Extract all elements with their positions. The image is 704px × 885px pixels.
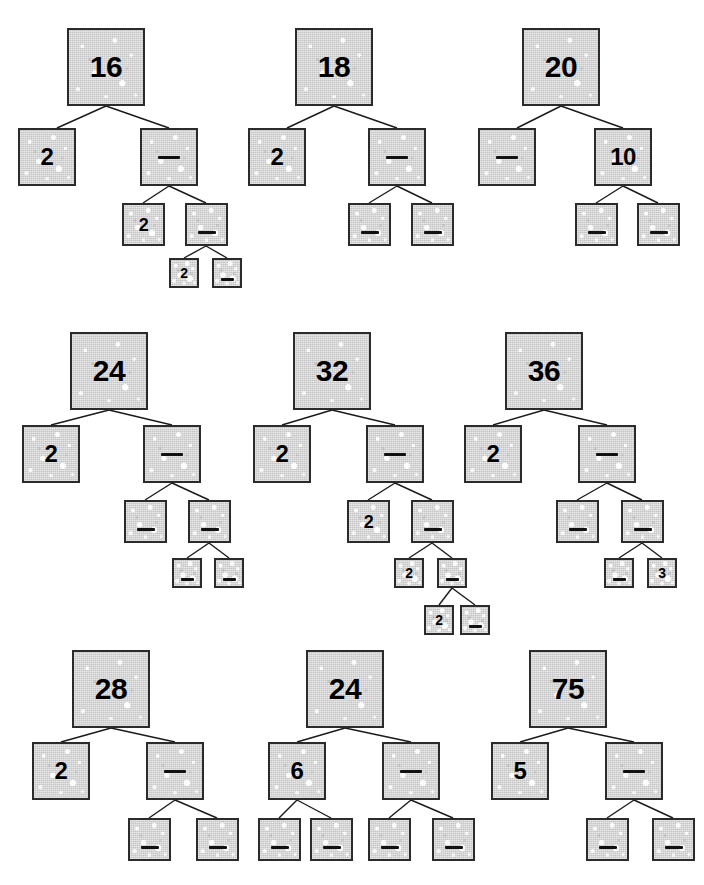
- tree-36-l3-left-blank-box[interactable]: [604, 558, 634, 588]
- tree-32-l2-right-blank-box[interactable]: [411, 500, 454, 543]
- tree-edge: [368, 483, 395, 500]
- tree-edge: [619, 543, 642, 558]
- answer-rule: [469, 625, 482, 628]
- tree-36-root-value-box[interactable]: 36: [505, 332, 583, 410]
- tree-36-l1-right-blank-box[interactable]: [578, 425, 636, 483]
- tree-edge: [287, 106, 334, 128]
- tree-24-b-l2-d-blank-box[interactable]: [432, 818, 475, 861]
- tree-75-l2-right-blank-box[interactable]: [652, 818, 695, 861]
- tree-32-root-value-box[interactable]: 32: [293, 332, 371, 410]
- tree-16-l3-left-value-box[interactable]: 2: [169, 258, 199, 288]
- answer-rule: [496, 156, 518, 159]
- tree-16-l1-left-value-box[interactable]: 2: [18, 128, 76, 186]
- tree-20-l2-right-blank-box[interactable]: [637, 203, 680, 246]
- node-value: 6: [291, 759, 304, 783]
- tree-24-b-l2-c-blank-box[interactable]: [368, 818, 411, 861]
- tree-edge: [145, 483, 172, 500]
- tree-edge: [279, 800, 297, 818]
- answer-rule: [588, 231, 606, 234]
- tree-24-a-l1-left-value-box[interactable]: 2: [22, 425, 80, 483]
- tree-32-l1-left-value-box[interactable]: 2: [253, 425, 311, 483]
- tree-36-l2-left-blank-box[interactable]: [556, 500, 599, 543]
- tree-edge: [395, 483, 432, 500]
- tree-28-l2-right-blank-box[interactable]: [196, 818, 239, 861]
- tree-32-l4-left-value-box[interactable]: 2: [424, 605, 454, 635]
- node-value: 24: [329, 674, 361, 704]
- tree-20-l1-left-blank-box[interactable]: [478, 128, 536, 186]
- tree-24-a-l3-left-blank-box[interactable]: [172, 558, 202, 588]
- tree-edge: [111, 728, 175, 742]
- tree-20-l1-right-value-box[interactable]: 10: [594, 128, 652, 186]
- tree-24-a-l2-right-blank-box[interactable]: [188, 500, 231, 543]
- tree-16-l2-left-value-box[interactable]: 2: [122, 203, 165, 246]
- tree-16-l3-right-blank-box[interactable]: [212, 258, 242, 288]
- tree-edge: [596, 186, 623, 203]
- answer-rule: [446, 578, 459, 581]
- tree-16-l2-right-blank-box[interactable]: [185, 203, 228, 246]
- answer-rule: [400, 770, 422, 773]
- tree-24-a-l3-right-blank-box[interactable]: [214, 558, 244, 588]
- tree-28-l2-left-blank-box[interactable]: [128, 818, 171, 861]
- tree-edge: [607, 800, 634, 818]
- tree-24-b-l2-b-blank-box[interactable]: [310, 818, 353, 861]
- tree-edge: [149, 800, 175, 818]
- tree-18-l1-right-blank-box[interactable]: [368, 128, 426, 186]
- tree-edge: [61, 728, 111, 742]
- tree-36-l2-right-blank-box[interactable]: [621, 500, 664, 543]
- tree-edge: [57, 106, 106, 128]
- tree-18-l2-left-blank-box[interactable]: [348, 203, 391, 246]
- answer-rule: [381, 846, 399, 849]
- tree-edge: [345, 728, 411, 742]
- tree-32-l4-right-blank-box[interactable]: [460, 605, 490, 635]
- node-value: 2: [55, 759, 68, 783]
- answer-rule: [164, 770, 186, 773]
- answer-rule: [209, 846, 227, 849]
- answer-rule: [323, 846, 341, 849]
- answer-rule: [141, 846, 159, 849]
- tree-32-l3-left-value-box[interactable]: 2: [394, 558, 424, 588]
- tree-36-l3-right-value-box[interactable]: 3: [647, 558, 677, 588]
- tree-36-l1-left-value-box[interactable]: 2: [464, 425, 522, 483]
- answer-rule: [361, 231, 379, 234]
- tree-24-a-root-value-box[interactable]: 24: [70, 332, 148, 410]
- tree-edge: [143, 186, 169, 203]
- tree-18-l2-right-blank-box[interactable]: [411, 203, 454, 246]
- tree-24-b-l1-right-blank-box[interactable]: [382, 742, 440, 800]
- answer-rule: [569, 528, 587, 531]
- tree-24-a-l2-left-blank-box[interactable]: [124, 500, 167, 543]
- tree-24-b-root-value-box[interactable]: 24: [306, 650, 384, 728]
- node-value: 2: [364, 513, 374, 531]
- tree-16-root-value-box[interactable]: 16: [67, 28, 145, 106]
- node-value: 20: [545, 52, 577, 82]
- tree-28-l1-left-value-box[interactable]: 2: [32, 742, 90, 800]
- tree-16-l1-right-blank-box[interactable]: [140, 128, 198, 186]
- node-value: 5: [514, 759, 527, 783]
- tree-20-l2-left-blank-box[interactable]: [575, 203, 618, 246]
- tree-28-l1-right-blank-box[interactable]: [146, 742, 204, 800]
- tree-24-a-l1-right-blank-box[interactable]: [143, 425, 201, 483]
- tree-75-l2-left-blank-box[interactable]: [586, 818, 629, 861]
- tree-edge: [332, 410, 395, 425]
- tree-edge: [642, 543, 662, 558]
- tree-edge: [206, 246, 227, 258]
- tree-75-root-value-box[interactable]: 75: [529, 650, 607, 728]
- answer-rule: [201, 528, 219, 531]
- node-value: 32: [316, 356, 348, 386]
- tree-24-b-l1-left-value-box[interactable]: 6: [268, 742, 326, 800]
- tree-32-l1-right-blank-box[interactable]: [366, 425, 424, 483]
- answer-rule: [424, 231, 442, 234]
- tree-24-b-l2-a-blank-box[interactable]: [258, 818, 301, 861]
- tree-32-l3-right-blank-box[interactable]: [437, 558, 467, 588]
- tree-28-root-value-box[interactable]: 28: [72, 650, 150, 728]
- tree-18-l1-left-value-box[interactable]: 2: [248, 128, 306, 186]
- tree-32-l2-left-value-box[interactable]: 2: [347, 500, 390, 543]
- node-value: 2: [139, 216, 149, 234]
- tree-edge: [397, 186, 432, 203]
- tree-18-root-value-box[interactable]: 18: [295, 28, 373, 106]
- node-value: 75: [552, 674, 584, 704]
- tree-75-l1-left-value-box[interactable]: 5: [491, 742, 549, 800]
- tree-20-root-value-box[interactable]: 20: [522, 28, 600, 106]
- tree-75-l1-right-blank-box[interactable]: [605, 742, 663, 800]
- answer-rule: [384, 453, 406, 456]
- answer-rule: [599, 846, 617, 849]
